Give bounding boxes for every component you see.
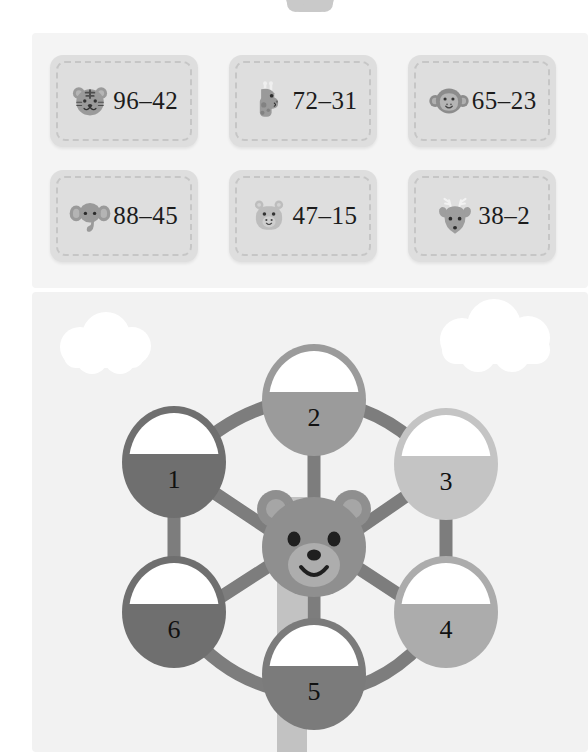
monkey-face-icon bbox=[428, 80, 470, 122]
bear-face-icon bbox=[257, 490, 371, 597]
problem-expression: 38–2 bbox=[478, 202, 530, 230]
answer-node-1[interactable]: 1 bbox=[122, 406, 226, 518]
problem-expression: 88–45 bbox=[113, 202, 178, 230]
node-label: 4 bbox=[440, 615, 453, 644]
problem-card[interactable]: 47–15 bbox=[229, 170, 377, 262]
hippo-face-icon bbox=[248, 195, 290, 237]
answer-node-3[interactable]: 3 bbox=[394, 408, 498, 520]
answer-node-6[interactable]: 6 bbox=[122, 556, 226, 668]
problem-card[interactable]: 88–45 bbox=[50, 170, 198, 262]
deer-face-icon bbox=[434, 195, 476, 237]
problem-card[interactable]: 65–23 bbox=[408, 55, 556, 147]
node-label: 5 bbox=[308, 677, 321, 706]
problem-expression: 47–15 bbox=[292, 202, 357, 230]
cloud-nub-partial-icon bbox=[286, 0, 334, 12]
problem-expression: 72–31 bbox=[292, 87, 357, 115]
giraffe-face-icon bbox=[248, 80, 290, 122]
node-label: 2 bbox=[308, 403, 321, 432]
problem-cards-panel: 96–42 bbox=[32, 33, 588, 288]
node-label: 1 bbox=[168, 465, 181, 494]
worksheet-page: 96–42 bbox=[0, 0, 588, 752]
node-label: 6 bbox=[168, 615, 181, 644]
problem-card[interactable]: 72–31 bbox=[229, 55, 377, 147]
problem-expression: 96–42 bbox=[113, 87, 178, 115]
puzzle-panel: 1 2 3 bbox=[32, 292, 588, 752]
cloud-right bbox=[440, 299, 550, 372]
node-label: 3 bbox=[440, 467, 453, 496]
cloud-left bbox=[60, 312, 151, 374]
elephant-face-icon bbox=[69, 195, 111, 237]
answer-node-2[interactable]: 2 bbox=[262, 344, 366, 456]
puzzle-diagram: 1 2 3 bbox=[32, 292, 588, 752]
answer-node-4[interactable]: 4 bbox=[394, 556, 498, 668]
problem-cards-grid: 96–42 bbox=[32, 33, 588, 288]
answer-node-5[interactable]: 5 bbox=[262, 618, 366, 730]
tiger-face-icon bbox=[69, 80, 111, 122]
problem-card[interactable]: 38–2 bbox=[408, 170, 556, 262]
problem-expression: 65–23 bbox=[472, 87, 537, 115]
problem-card[interactable]: 96–42 bbox=[50, 55, 198, 147]
